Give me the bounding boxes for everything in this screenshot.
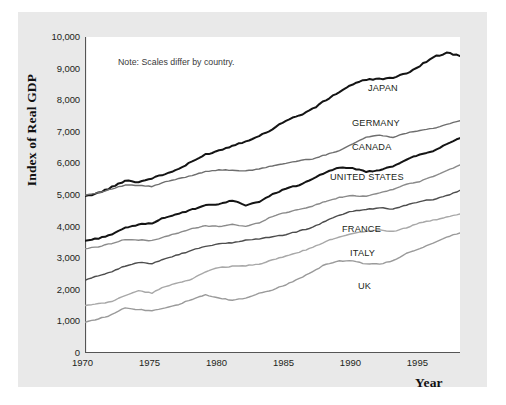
x-tick-1985: 1985 (273, 357, 294, 368)
y-axis-tick-labels: 10,0009,0008,0007,0006,0005,0004,0003,00… (20, 0, 80, 405)
x-axis-title: Year (415, 375, 443, 391)
series-line-canada (85, 138, 460, 241)
x-tick-1980: 1980 (206, 357, 227, 368)
chart-note: Note: Scales differ by country. (118, 57, 235, 67)
series-line-italy (85, 214, 460, 306)
y-tick-4000: 4,000 (57, 221, 80, 232)
series-line-france (85, 190, 460, 280)
series-label-germany: GERMANY (352, 118, 400, 128)
y-tick-9000: 9,000 (57, 63, 80, 74)
series-label-italy: ITALY (350, 248, 375, 258)
x-tick-1970: 1970 (72, 357, 93, 368)
y-tick-3000: 3,000 (57, 252, 80, 263)
series-canvas (85, 37, 460, 353)
series-line-germany (85, 121, 460, 196)
y-tick-7000: 7,000 (57, 126, 80, 137)
y-tick-8000: 8,000 (57, 94, 80, 105)
series-line-uk (85, 233, 460, 322)
y-tick-5000: 5,000 (57, 189, 80, 200)
series-label-canada: CANADA (352, 142, 392, 152)
x-tick-1990: 1990 (340, 357, 361, 368)
chart-figure: Index of Real GDP 10,0009,0008,0007,0006… (0, 0, 506, 405)
series-label-uk: UK (358, 281, 371, 291)
y-tick-10000: 10,000 (52, 31, 80, 42)
series-line-japan (85, 53, 460, 196)
plot-area (85, 37, 460, 353)
x-tick-1995: 1995 (407, 357, 428, 368)
y-tick-1000: 1,000 (57, 315, 80, 326)
x-tick-1975: 1975 (139, 357, 160, 368)
series-label-united-states: UNITED STATES (330, 172, 404, 182)
y-tick-6000: 6,000 (57, 157, 80, 168)
y-tick-2000: 2,000 (57, 284, 80, 295)
series-label-japan: JAPAN (368, 83, 398, 93)
series-label-france: FRANCE (342, 224, 381, 234)
x-axis-tick-labels: 197019751980198519901995 (0, 357, 506, 377)
